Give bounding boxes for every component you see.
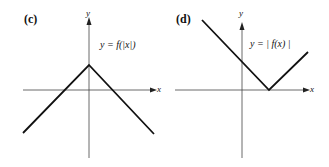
curve-abs-f-x	[202, 20, 308, 90]
y-axis-arrow-icon	[240, 22, 245, 30]
x-axis-label: x	[157, 84, 161, 94]
panel-d: (d) y x y = | f(x) |	[165, 0, 329, 167]
x-axis-arrow-icon	[303, 88, 310, 93]
equation-label: y = f(|x|)	[100, 39, 136, 50]
y-axis-label: y	[239, 8, 243, 18]
panel-label: (c)	[24, 12, 37, 27]
x-axis-arrow-icon	[150, 88, 157, 93]
panel-c: (c) y x y = f(|x|)	[0, 0, 165, 167]
panel-label: (d)	[176, 12, 191, 27]
equation-label: y = | f(x) |	[250, 38, 291, 49]
y-axis-label: y	[86, 8, 90, 18]
curve-f-abs-x	[23, 65, 154, 134]
x-axis-label: x	[310, 84, 314, 94]
y-axis-arrow-icon	[87, 17, 92, 25]
